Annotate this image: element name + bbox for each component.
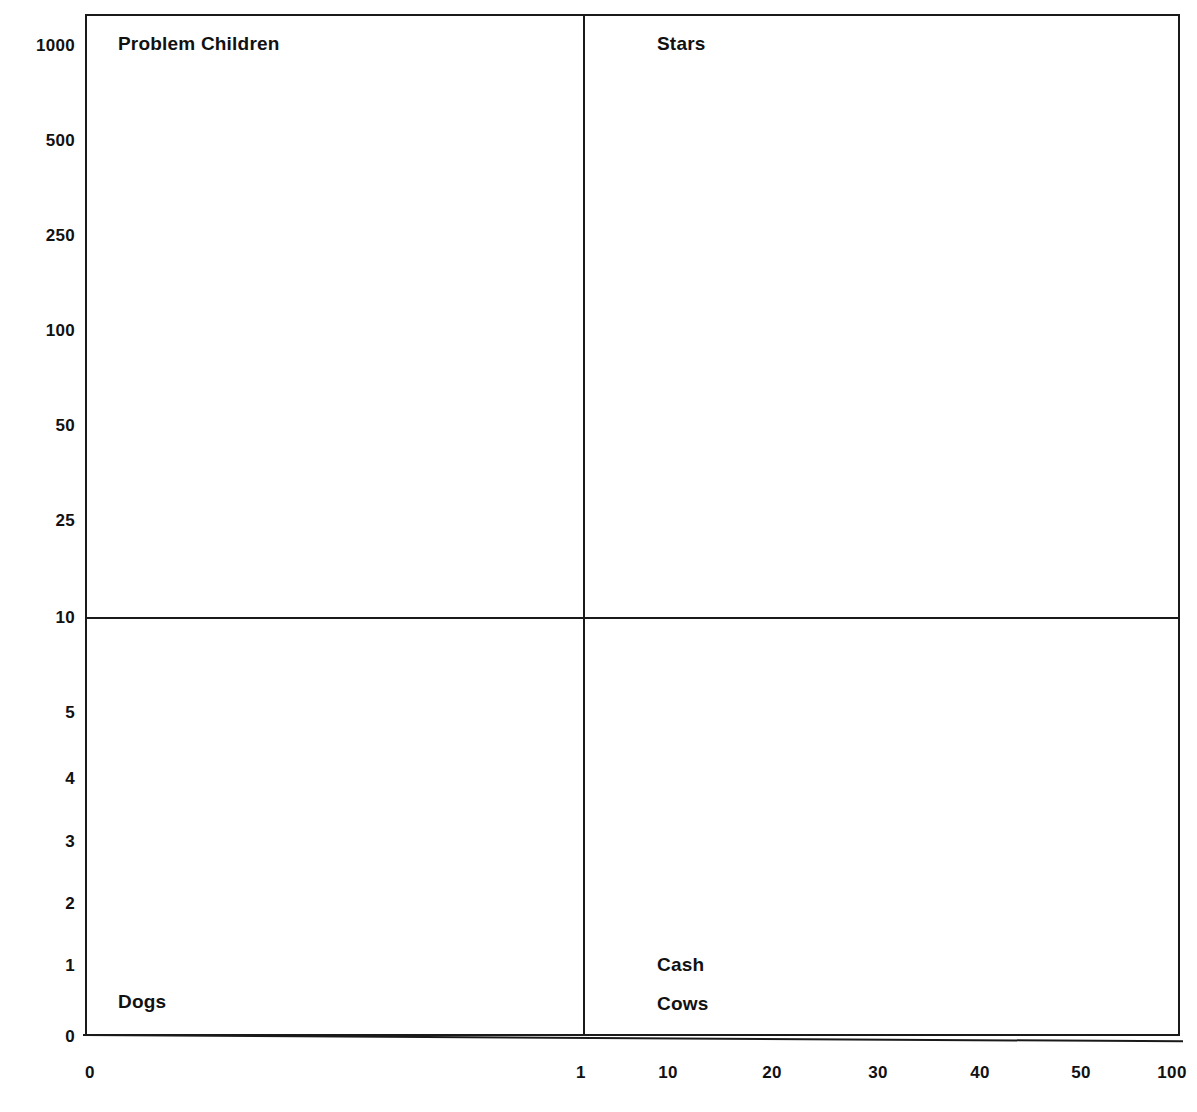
y-axis-tick-label: 1000 — [5, 37, 75, 54]
horizontal-divider-line — [85, 617, 1180, 619]
plot-area — [85, 14, 1180, 1036]
x-axis-tick-label: 100 — [1157, 1064, 1186, 1081]
x-axis-tick-label: 50 — [1071, 1064, 1091, 1081]
quadrant-label-dogs: Dogs — [118, 992, 166, 1011]
quadrant-label-cash-cows-line2: Cows — [657, 994, 708, 1013]
y-axis-tick-label: 3 — [5, 833, 75, 850]
vertical-divider-line — [583, 14, 585, 1036]
x-axis-tick-label: 1 — [576, 1064, 586, 1081]
y-axis-tick-label: 100 — [5, 322, 75, 339]
quadrant-label-cash-cows: Cash Cows — [657, 955, 708, 1013]
quadrant-label-stars: Stars — [657, 34, 706, 53]
y-axis-tick-label: 4 — [5, 770, 75, 787]
y-axis-tick-label: 25 — [5, 512, 75, 529]
y-axis-tick-label: 250 — [5, 227, 75, 244]
quadrant-label-problem-children: Problem Children — [118, 34, 280, 53]
x-axis-tick-label: 20 — [762, 1064, 782, 1081]
quadrant-label-cash-cows-line1: Cash — [657, 954, 704, 975]
x-axis-tick-label: 0 — [85, 1064, 95, 1081]
x-axis-tick-label: 10 — [658, 1064, 678, 1081]
y-axis-tick-label: 5 — [5, 704, 75, 721]
y-axis-tick-label: 50 — [5, 417, 75, 434]
y-axis-tick-label: 500 — [5, 132, 75, 149]
x-axis-tick-label: 40 — [970, 1064, 990, 1081]
bcg-matrix-chart: Problem Children Stars Dogs Cash Cows 10… — [0, 0, 1197, 1112]
y-axis-tick-label: 10 — [5, 609, 75, 626]
y-axis-tick-label: 0 — [5, 1028, 75, 1045]
y-axis-tick-label: 2 — [5, 895, 75, 912]
x-axis-tick-label: 30 — [868, 1064, 888, 1081]
y-axis-tick-label: 1 — [5, 957, 75, 974]
